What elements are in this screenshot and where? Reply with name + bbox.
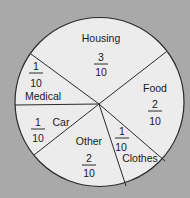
- slice-label-medical: Medical: [25, 90, 61, 102]
- slice-numerator-other: 2: [86, 152, 92, 164]
- slice-denominator-food: 10: [149, 115, 161, 127]
- slice-denominator-housing: 10: [95, 66, 107, 78]
- slice-label-clothes: Clothes: [122, 152, 158, 164]
- slice-numerator-clothes: 1: [119, 125, 125, 137]
- slice-numerator-food: 2: [152, 98, 158, 110]
- slice-label-car: Car: [53, 116, 70, 128]
- slice-label-food: Food: [143, 82, 167, 94]
- slice-denominator-car: 10: [32, 132, 44, 144]
- slice-numerator-medical: 1: [33, 60, 39, 72]
- slice-numerator-housing: 3: [98, 51, 104, 63]
- slice-label-housing: Housing: [82, 32, 121, 44]
- slice-label-other: Other: [76, 135, 103, 147]
- slice-denominator-other: 10: [83, 167, 95, 179]
- slice-denominator-medical: 10: [30, 77, 42, 89]
- slice-numerator-car: 1: [35, 116, 41, 128]
- pie-chart: Housing 3 10 Food 2 10 1 10 Clothes Othe…: [0, 0, 190, 198]
